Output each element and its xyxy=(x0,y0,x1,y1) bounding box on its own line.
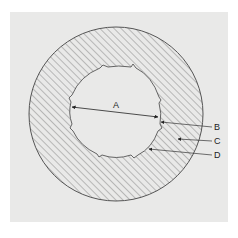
label-c: C xyxy=(214,137,221,146)
label-d: D xyxy=(214,151,221,160)
ring-cross-section-diagram xyxy=(0,0,238,238)
label-a: A xyxy=(113,101,119,110)
label-b: B xyxy=(214,123,220,132)
